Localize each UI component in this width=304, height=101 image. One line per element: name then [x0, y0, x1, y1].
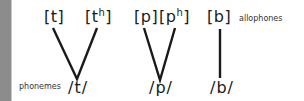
allophone-t: [t] — [44, 9, 64, 25]
allophone-b: [b] — [207, 9, 231, 25]
allophone-p-base: [p — [134, 7, 151, 26]
allophones-label: allophones — [239, 15, 282, 23]
allophone-t-base: [t — [44, 7, 58, 26]
allophone-b-close: ] — [224, 7, 231, 26]
allophone-ph-base: [p — [159, 7, 176, 26]
phoneme-b: /b/ — [210, 80, 234, 96]
allophone-b-base: [b — [207, 7, 224, 26]
phoneme-p: /p/ — [149, 80, 173, 96]
allophone-t-close: ] — [58, 7, 65, 26]
phoneme-t: /t/ — [68, 80, 88, 96]
allophone-p: [p] — [134, 9, 158, 25]
allophone-th: [th] — [85, 9, 112, 25]
allophone-ph: [ph] — [159, 9, 190, 25]
allophone-th-close: ] — [105, 7, 112, 26]
phonemes-label: phonemes — [19, 83, 61, 91]
allophone-p-close: ] — [151, 7, 158, 26]
p-connector — [144, 28, 175, 80]
t-connector — [53, 28, 97, 79]
allophone-ph-close: ] — [183, 7, 190, 26]
allophone-th-base: [t — [85, 7, 99, 26]
